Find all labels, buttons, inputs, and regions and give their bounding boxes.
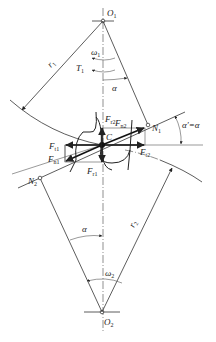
gear1-tooth-right [103, 158, 112, 170]
n1-point [146, 123, 150, 127]
gear1-tooth-profile [70, 112, 96, 172]
label-n1: N1 [151, 123, 161, 134]
label-fn2: Fn2 [114, 118, 127, 129]
r1-radius-line [22, 21, 103, 110]
label-c: C [106, 132, 113, 142]
alpha-prime-arc [175, 116, 181, 144]
fn1-vector [66, 145, 102, 161]
label-t1: T1 [76, 63, 84, 74]
omega1-arrow [92, 58, 115, 60]
r2-radius-line [102, 168, 172, 312]
label-o1: O1 [107, 8, 117, 19]
alpha-top-arc [103, 78, 127, 80]
o1-n1-line [103, 21, 148, 125]
label-fn1: Fn1 [47, 154, 60, 165]
label-o2: O2 [104, 317, 114, 328]
label-fr2: Fr2 [104, 114, 116, 125]
label-r1: r1 [45, 58, 58, 70]
gear-force-diagram: O1 O2 r1 r2 ω1 T1 α α α′=α ω2 C N1 N2 Ft… [0, 0, 216, 342]
label-omega2: ω2 [105, 268, 114, 279]
label-alpha-bottom: α [82, 224, 87, 234]
label-r2: r2 [127, 219, 140, 230]
o2-n2-line [40, 178, 102, 312]
label-n2: N2 [27, 176, 37, 187]
label-alpha-top: α [112, 83, 117, 93]
pitch-point-c [99, 142, 105, 148]
label-alpha-prime: α′=α [182, 120, 200, 130]
label-fr1: Fr1 [86, 166, 98, 177]
label-ft1: Ft1 [48, 141, 59, 152]
gear1-pitch-arc [10, 100, 102, 145]
gear2-pitch-arc [160, 160, 202, 182]
alpha-bottom-arc [70, 236, 102, 241]
label-omega1: ω1 [91, 47, 100, 58]
n2-point [38, 176, 42, 180]
t1-arrow [92, 70, 115, 72]
label-ft2: Ft2 [139, 147, 150, 158]
